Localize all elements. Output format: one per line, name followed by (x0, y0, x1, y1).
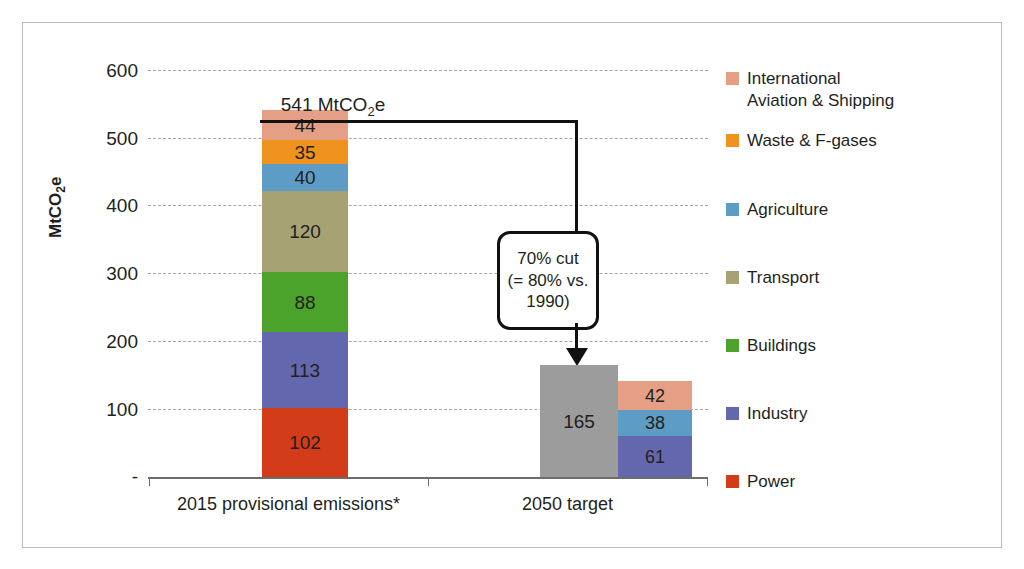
total-2015-value: 541 MtCO (281, 94, 368, 115)
connector-line-upper (575, 120, 578, 232)
bar-segment-waste-f-gases-2015[interactable]: 35 (262, 140, 348, 164)
gridline-200 (148, 341, 708, 342)
bar-segment-industry-2015[interactable]: 113 (262, 332, 348, 408)
bar-segment-buildings-2015[interactable]: 88 (262, 272, 348, 332)
legend-label-waste-f-gases: Waste & F-gases (747, 130, 877, 152)
gridline-300 (148, 273, 708, 274)
legend-swatch-icon-industry (726, 407, 739, 420)
legend-item-industry[interactable]: Industry (726, 403, 807, 425)
legend-item-power[interactable]: Power (726, 471, 795, 493)
gridline-600 (148, 70, 708, 71)
total-2015-subscript: 2 (367, 104, 374, 119)
bar-segment-agriculture-2015[interactable]: 40 (262, 164, 348, 191)
legend-label-power: Power (747, 471, 795, 493)
total-2015-tail: e (375, 94, 386, 115)
legend-item-transport[interactable]: Transport (726, 267, 819, 289)
chart-canvas: MtCO2e 600 500 400 300 200 100 - 44 35 4… (0, 0, 1024, 569)
y-tick-label-400: 400 (76, 195, 138, 217)
legend-label-agriculture: Agriculture (747, 199, 828, 221)
gridline-400 (148, 205, 708, 206)
legend-item-international-aviation-shipping[interactable]: International Aviation & Shipping (726, 68, 894, 111)
legend-label-industry: Industry (747, 403, 807, 425)
legend-label-buildings: Buildings (747, 335, 816, 357)
x-axis-tick-start (149, 477, 150, 486)
bar-segment-industry-2050[interactable]: 61 (618, 436, 692, 477)
y-tick-label-600: 600 (76, 60, 138, 82)
callout-line-3: 1990) (526, 291, 569, 313)
legend-swatch-icon-agriculture (726, 203, 739, 216)
bar-segment-power-2015[interactable]: 102 (262, 408, 348, 477)
legend-item-waste-f-gases[interactable]: Waste & F-gases (726, 130, 877, 152)
legend-label-transport: Transport (747, 267, 819, 289)
bar-segment-international-aviation-shipping-2050[interactable]: 42 (618, 381, 692, 410)
y-axis-title-tail: e (46, 177, 65, 186)
legend-swatch-icon-transport (726, 271, 739, 284)
legend-swatch-icon-international-aviation-shipping (726, 72, 739, 85)
y-tick-label-100: 100 (76, 399, 138, 421)
gridline-500 (148, 138, 708, 139)
x-axis-tick-end (707, 477, 708, 486)
connector-line-lower (575, 323, 578, 351)
y-tick-label-0: - (76, 466, 138, 488)
bar-segment-agriculture-2050[interactable]: 38 (618, 410, 692, 436)
legend-item-buildings[interactable]: Buildings (726, 335, 816, 357)
x-category-label-2050: 2050 target (428, 494, 707, 515)
legend-label-international-aviation-shipping: International Aviation & Shipping (747, 68, 894, 111)
arrow-down-icon (566, 348, 588, 366)
total-2015-label: 541 MtCO2e (258, 94, 408, 119)
y-axis-title-main: MtCO (46, 193, 65, 238)
y-tick-label-300: 300 (76, 263, 138, 285)
reduction-callout: 70% cut (= 80% vs. 1990) (497, 231, 599, 330)
legend-item-agriculture[interactable]: Agriculture (726, 199, 828, 221)
bar-segment-transport-2015[interactable]: 120 (262, 191, 348, 272)
x-category-label-2015: 2015 provisional emissions* (149, 494, 428, 515)
y-axis-title-subscript: 2 (54, 186, 68, 193)
y-tick-label-200: 200 (76, 331, 138, 353)
legend-swatch-icon-waste-f-gases (726, 134, 739, 147)
y-axis-title: MtCO2e (46, 177, 68, 238)
callout-line-1: 70% cut (517, 248, 578, 270)
bar-2050-target-total[interactable]: 165 (540, 365, 618, 477)
legend-swatch-icon-buildings (726, 339, 739, 352)
total-2015-rule (260, 120, 578, 123)
callout-line-2: (= 80% vs. (508, 270, 589, 292)
legend-swatch-icon-power (726, 475, 739, 488)
x-axis-tick-mid (428, 477, 429, 486)
y-tick-label-500: 500 (76, 128, 138, 150)
